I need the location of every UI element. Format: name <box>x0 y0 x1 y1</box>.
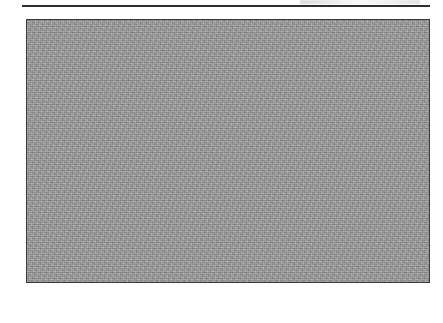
plot-background <box>27 20 429 282</box>
y-axis <box>0 0 24 323</box>
scan-artifact-smudge <box>300 0 420 4</box>
top-horizontal-rule <box>22 5 430 7</box>
bar-chart <box>26 19 430 283</box>
